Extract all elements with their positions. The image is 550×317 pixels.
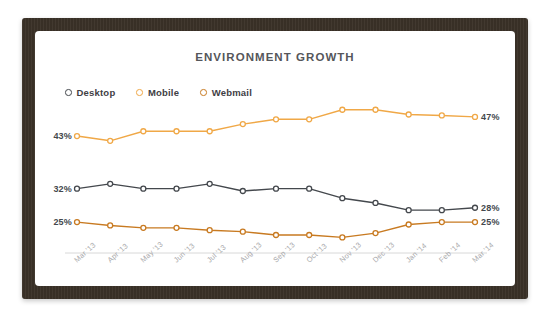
data-point[interactable] (240, 189, 245, 194)
data-point[interactable] (174, 225, 179, 230)
x-tick-label: May '13 (139, 240, 165, 265)
data-point[interactable] (108, 138, 113, 143)
x-tick-label: Jul '13 (205, 243, 228, 265)
x-tick-label: Nov '13 (338, 240, 364, 264)
data-point[interactable] (307, 186, 312, 191)
data-point[interactable] (340, 196, 345, 201)
data-point[interactable] (373, 107, 378, 112)
data-point[interactable] (307, 117, 312, 122)
x-tick-label: Sep '13 (271, 240, 297, 264)
x-tick-labels: Mar '13Apr '13May '13Jun '13Jul '13Aug '… (72, 240, 495, 265)
data-point[interactable] (406, 112, 411, 117)
end-value-label-desktop: 28% (481, 203, 500, 213)
end-value-label-mobile: 47% (481, 112, 500, 122)
data-point[interactable] (174, 186, 179, 191)
data-point[interactable] (108, 223, 113, 228)
start-value-label-desktop: 32% (53, 184, 72, 194)
data-point[interactable] (141, 225, 146, 230)
data-point[interactable] (274, 186, 279, 191)
series-webmail (75, 220, 478, 240)
data-point[interactable] (406, 208, 411, 213)
data-point[interactable] (439, 113, 444, 118)
data-point[interactable] (473, 220, 478, 225)
data-point[interactable] (75, 186, 80, 191)
data-point[interactable] (274, 233, 279, 238)
data-point[interactable] (141, 186, 146, 191)
data-point[interactable] (307, 233, 312, 238)
x-tick-label: Dec '13 (371, 240, 397, 264)
start-value-label-webmail: 25% (53, 217, 72, 227)
series-mobile (75, 107, 478, 143)
data-point[interactable] (108, 181, 113, 186)
end-value-label-webmail: 25% (481, 217, 500, 227)
data-point[interactable] (340, 107, 345, 112)
data-point[interactable] (373, 231, 378, 236)
data-point[interactable] (473, 114, 478, 119)
data-point[interactable] (75, 134, 80, 139)
data-point[interactable] (141, 129, 146, 134)
x-tick-label: Aug '13 (238, 240, 264, 264)
series-desktop (75, 181, 478, 212)
data-point[interactable] (240, 122, 245, 127)
series-line-mobile (77, 110, 475, 141)
data-point[interactable] (473, 205, 478, 210)
data-point[interactable] (207, 181, 212, 186)
start-value-label-mobile: 43% (53, 131, 72, 141)
chart-card: ENVIRONMENT GROWTH Desktop Mobile Webmai… (35, 31, 515, 286)
chart-frame: ENVIRONMENT GROWTH Desktop Mobile Webmai… (22, 18, 528, 299)
line-chart-plot: Mar '13Apr '13May '13Jun '13Jul '13Aug '… (35, 31, 515, 286)
data-point[interactable] (274, 117, 279, 122)
data-point[interactable] (340, 235, 345, 240)
data-point[interactable] (75, 220, 80, 225)
data-point[interactable] (207, 228, 212, 233)
series-group (75, 107, 478, 240)
data-point[interactable] (174, 129, 179, 134)
data-point[interactable] (439, 208, 444, 213)
data-point[interactable] (207, 129, 212, 134)
data-point[interactable] (406, 222, 411, 227)
data-point[interactable] (439, 220, 444, 225)
data-point[interactable] (373, 200, 378, 205)
data-point[interactable] (240, 229, 245, 234)
